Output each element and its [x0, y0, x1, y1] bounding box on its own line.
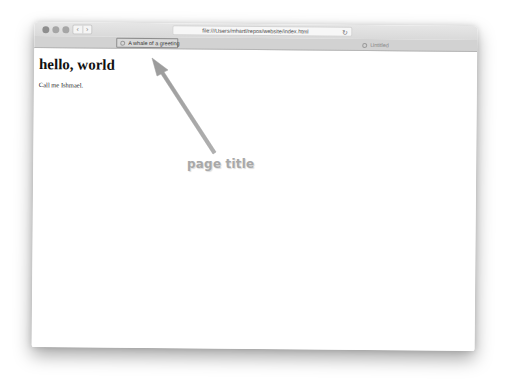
url-text: file:///Users/mhartl/repos/website/index… — [173, 26, 337, 36]
back-button[interactable]: ‹ — [73, 25, 82, 33]
close-window-button[interactable] — [42, 26, 49, 33]
page-paragraph: Call me Ishmael. — [39, 81, 472, 93]
forward-button[interactable]: › — [82, 25, 92, 33]
tab-active[interactable]: A whale of a greeting — [116, 38, 178, 49]
navigation-buttons: ‹ › — [72, 24, 92, 34]
screenshot-stage: ‹ › file:///Users/mhartl/repos/website/i… — [0, 0, 507, 381]
reload-icon[interactable]: ↻ — [342, 28, 348, 37]
tab-inactive[interactable]: Untitled — [359, 40, 419, 51]
page-content: hello, world Call me Ishmael. — [32, 49, 478, 351]
page-icon — [120, 40, 125, 45]
minimize-window-button[interactable] — [52, 26, 59, 33]
page-heading: hello, world — [39, 55, 472, 77]
address-bar[interactable]: file:///Users/mhartl/repos/website/index… — [172, 25, 352, 37]
browser-window: ‹ › file:///Users/mhartl/repos/website/i… — [32, 22, 478, 351]
annotation-label: page title — [187, 157, 254, 171]
maximize-window-button[interactable] — [62, 26, 69, 33]
page-icon — [362, 42, 367, 47]
tab-title: A whale of a greeting — [128, 40, 179, 46]
tab-title: Untitled — [370, 42, 389, 48]
